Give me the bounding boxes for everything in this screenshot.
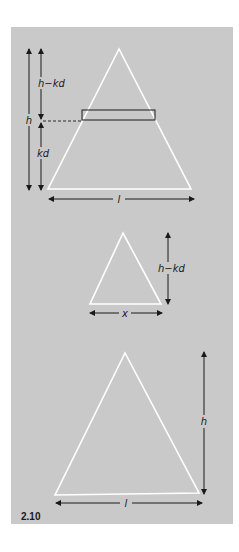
figure-canvas: h h−kd kd l h−kd x h l 2.10 [0,0,239,552]
large-triangle [48,49,191,189]
small-triangle [90,233,161,304]
middle-diagram: h−kd x [90,233,187,319]
middle-base-label: x [121,308,128,319]
bottom-base-label: l [125,498,128,509]
top-diagram: h h−kd kd l [24,49,194,205]
figure-number: 2.10 [21,511,41,522]
bottom-diagram: h l [55,352,209,509]
strip-rectangle [82,110,155,120]
upper-segment-label: h−kd [38,78,66,89]
lower-segment-label: kd [37,148,50,159]
height-h-label: h [26,115,32,126]
base-l-label: l [118,194,121,205]
middle-height-label: h−kd [158,263,186,274]
reference-triangle [55,353,199,495]
bottom-height-label: h [201,416,207,427]
